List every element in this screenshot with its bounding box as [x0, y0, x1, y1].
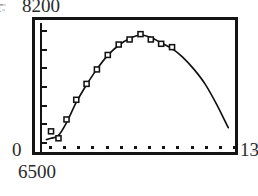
- data-point-marker: [138, 32, 143, 37]
- plot-canvas: [35, 20, 235, 152]
- data-point-marker: [56, 136, 61, 141]
- scan-speckle: [252, 150, 256, 152]
- x-axis-min-label: 6500: [18, 162, 56, 181]
- data-point-marker: [74, 97, 79, 102]
- data-point-marker: [48, 129, 53, 134]
- data-point-marker: [148, 37, 153, 42]
- scan-speckle: [2, 9, 5, 11]
- scan-speckle: [0, 4, 6, 6]
- data-point-marker: [94, 67, 99, 72]
- figure-root: r 8200 0 6500 13: [0, 0, 258, 196]
- fit-curve: [46, 35, 228, 140]
- plot-frame: [32, 17, 238, 155]
- data-point-marker: [64, 117, 69, 122]
- data-point-marker: [127, 37, 132, 42]
- data-point-marker: [170, 45, 175, 50]
- y-axis-min-label: 0: [12, 140, 22, 159]
- data-point-marker: [116, 42, 121, 47]
- y-axis-max-label: 8200: [22, 0, 60, 15]
- data-markers: [48, 32, 174, 141]
- data-point-marker: [159, 41, 164, 46]
- data-point-marker: [84, 81, 89, 86]
- data-point-marker: [105, 52, 110, 57]
- corner-glyph-label: r: [0, 0, 3, 15]
